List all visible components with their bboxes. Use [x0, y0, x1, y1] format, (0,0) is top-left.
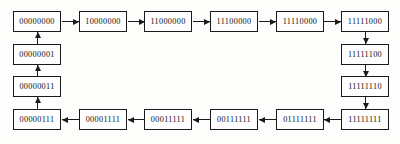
arrow-right-icon [128, 18, 145, 25]
state-node: 00000011 [13, 76, 61, 97]
arrow-head [62, 117, 68, 123]
state-node: 00000001 [13, 44, 61, 65]
arrow-head [324, 117, 330, 123]
arrow-down-icon [362, 32, 369, 44]
state-node: 11110000 [276, 11, 324, 32]
arrow-head [35, 97, 41, 103]
state-node: 10000000 [79, 11, 127, 32]
arrow-right-icon [62, 18, 79, 25]
arrow-left-icon [193, 116, 210, 123]
arrow-right-icon [259, 18, 276, 25]
arrow-down-icon [362, 97, 369, 109]
state-node: 01111111 [276, 109, 324, 130]
arrow-head [35, 32, 41, 38]
arrow-right-icon [324, 18, 341, 25]
state-node: 11111110 [341, 76, 389, 97]
state-node: 11100000 [210, 11, 258, 32]
state-node: 11111111 [341, 109, 389, 130]
state-node: 00011111 [144, 109, 192, 130]
state-node: 11111000 [341, 11, 389, 32]
arrow-left-icon [324, 116, 341, 123]
arrow-head [259, 117, 265, 123]
arrow-right-icon [193, 18, 210, 25]
arrow-head [35, 65, 41, 71]
state-node: 00001111 [79, 109, 127, 130]
state-node: 00000111 [13, 109, 61, 130]
arrow-head [193, 117, 199, 123]
state-node: 11000000 [144, 11, 192, 32]
state-node: 11111100 [341, 44, 389, 65]
arrow-up-icon [34, 32, 41, 44]
state-node: 00111111 [210, 109, 258, 130]
arrow-left-icon [259, 116, 276, 123]
arrow-up-icon [34, 97, 41, 109]
arrow-head [128, 117, 134, 123]
arrow-left-icon [62, 116, 79, 123]
state-node: 00000000 [13, 11, 61, 32]
arrow-left-icon [128, 116, 145, 123]
binary-state-cycle-diagram: 0000000010000000110000001110000011110000… [0, 0, 400, 144]
